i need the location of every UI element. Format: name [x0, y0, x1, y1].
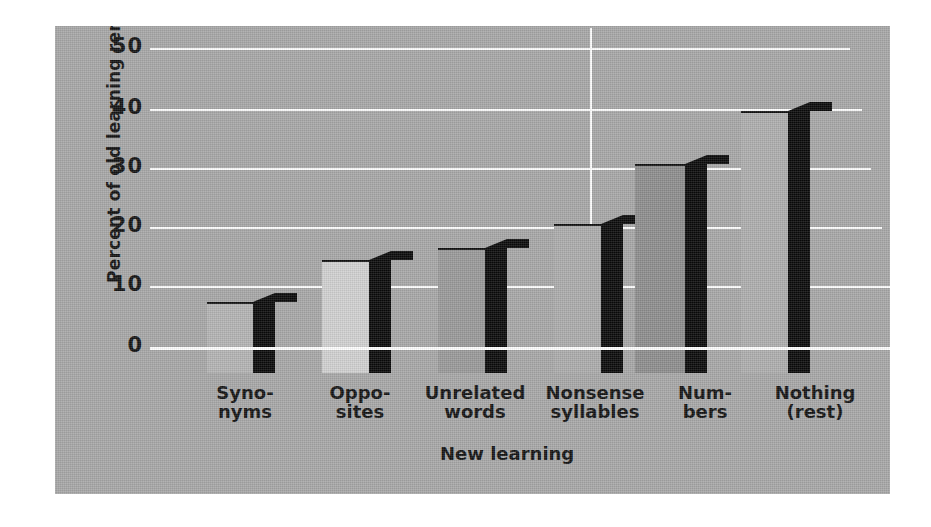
- bar-top-face: [369, 251, 413, 260]
- x-axis-title: New learning: [440, 443, 574, 464]
- y-tick-label: 10: [97, 272, 143, 296]
- y-tick-label: 30: [97, 154, 143, 178]
- bar-nonsense-syllables: [554, 224, 601, 373]
- x-tick-label-nonsense: Nonsense syllables: [525, 383, 665, 422]
- bar-top-face: [685, 155, 729, 164]
- x-tick-label-unrelated-words: Unrelated words: [410, 383, 540, 422]
- bar-front-face: [207, 302, 253, 373]
- bar-side-face: [369, 260, 391, 373]
- plot-area: [150, 48, 890, 373]
- chart-panel: Percent of old learning remembered 50 40…: [55, 26, 890, 494]
- y-tick-label: 20: [97, 213, 143, 237]
- bar-side-face: [788, 111, 810, 373]
- bar-side-face: [601, 224, 623, 373]
- axis-zero-line: [150, 347, 890, 350]
- bar-top-face: [253, 293, 297, 302]
- x-tick-label-numbers: Num- bers: [655, 383, 755, 422]
- bar-front-face: [554, 224, 601, 373]
- x-tick-label-opposites: Oppo- sites: [310, 383, 410, 422]
- bar-nothing-rest: [741, 111, 788, 373]
- bar-side-face: [253, 302, 275, 373]
- y-tick-label: 40: [97, 95, 143, 119]
- y-tick-label: 0: [97, 333, 143, 357]
- x-tick-label-synonyms: Syno- nyms: [195, 383, 295, 422]
- bar-front-face: [438, 248, 485, 373]
- bar-side-face: [485, 248, 507, 373]
- gridline-50: [150, 48, 850, 50]
- bar-side-face: [685, 164, 707, 373]
- bar-top-face: [788, 102, 832, 111]
- bar-front-face: [322, 260, 369, 373]
- bar-synonyms: [207, 302, 253, 373]
- bar-unrelated-words: [438, 248, 485, 373]
- y-tick-label: 50: [97, 34, 143, 58]
- bar-front-face: [741, 111, 788, 373]
- bar-top-face: [485, 239, 529, 248]
- bar-numbers: [635, 164, 685, 373]
- bar-opposites: [322, 260, 369, 373]
- x-tick-label-nothing-rest: Nothing (rest): [755, 383, 875, 422]
- bar-front-face: [635, 164, 685, 373]
